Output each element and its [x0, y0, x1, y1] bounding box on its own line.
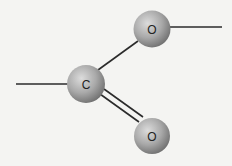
- bond-c-o-single: [98, 41, 138, 70]
- atom-oxygen-top-label: O: [147, 23, 156, 37]
- bond-c-o-double-1: [100, 94, 139, 122]
- atom-oxygen-bottom: O: [134, 118, 170, 154]
- bond-c-o-double-2: [104, 89, 143, 117]
- molecule-svg: C O O: [0, 0, 232, 166]
- atom-oxygen-bottom-label: O: [147, 130, 156, 144]
- atom-carbon: C: [67, 65, 105, 103]
- atom-carbon-label: C: [82, 78, 91, 92]
- molecule-diagram: C O O: [0, 0, 232, 166]
- atom-oxygen-top: O: [134, 11, 171, 48]
